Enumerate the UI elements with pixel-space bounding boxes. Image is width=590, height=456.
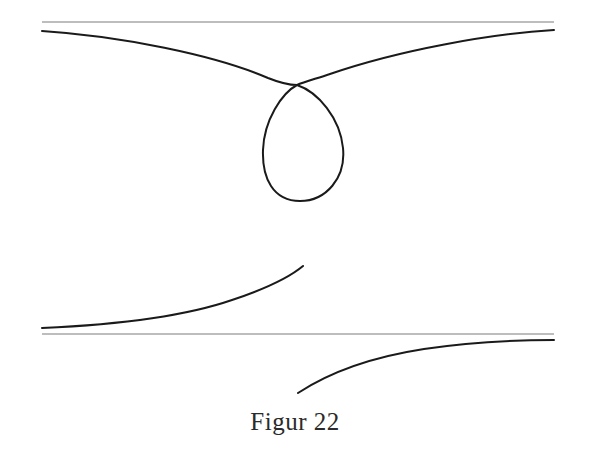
figure-canvas (0, 0, 590, 456)
figure-container: Figur 22 (0, 0, 590, 456)
figure-caption: Figur 22 (0, 406, 590, 438)
figure-background (0, 0, 590, 456)
